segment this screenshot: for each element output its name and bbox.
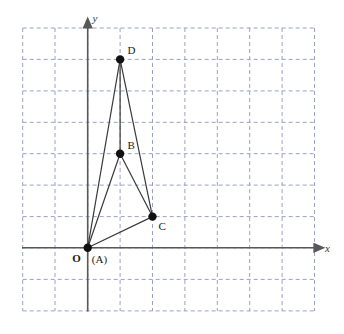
point-o-a[interactable] xyxy=(84,244,92,252)
label-origin-alias: (A) xyxy=(92,253,108,266)
label-point-d: D xyxy=(128,44,136,56)
point-d[interactable] xyxy=(116,55,124,63)
label-point-c: C xyxy=(159,220,166,232)
point-c[interactable] xyxy=(148,212,156,220)
x-axis-label: x xyxy=(324,242,330,254)
point-b[interactable] xyxy=(116,150,124,158)
label-point-b: B xyxy=(128,139,135,151)
y-axis-label: y xyxy=(92,12,98,24)
coordinate-plane-svg: O (A) B C D x y xyxy=(0,0,344,334)
coordinate-figure: O (A) B C D x y xyxy=(0,0,344,334)
label-origin: O xyxy=(72,252,81,264)
figure-background xyxy=(0,0,344,334)
